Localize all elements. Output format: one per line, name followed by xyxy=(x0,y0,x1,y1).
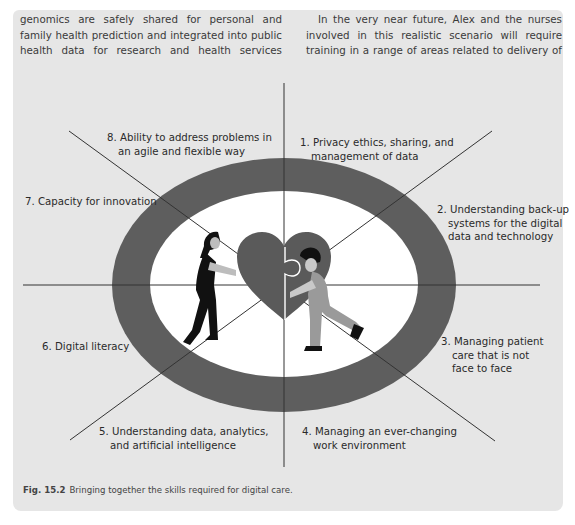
skill-text-3-line1: Managing patient xyxy=(454,336,543,347)
skill-text-2-line3: data and technology xyxy=(437,230,569,244)
skill-label-3: 3. Managing patient care that is not fac… xyxy=(441,335,543,376)
skill-text-8-line1: Ability to address problems in xyxy=(120,132,272,143)
skill-label-4: 4. Managing an ever-changing work enviro… xyxy=(302,425,457,452)
skill-number-2: 2. xyxy=(437,204,447,215)
skill-label-6: 6. Digital literacy xyxy=(42,340,129,354)
skill-text-5-line1: Understanding data, analytics, xyxy=(112,426,269,437)
skill-label-5: 5. Understanding data, analytics, and ar… xyxy=(99,425,268,452)
skill-text-8-line2: an agile and flexible way xyxy=(107,145,272,159)
figure-caption-text: Bringing together the skills required fo… xyxy=(69,485,292,495)
skill-label-7: 7. Capacity for innovation xyxy=(25,195,157,209)
skill-text-1-line1: Privacy ethics, sharing, and xyxy=(313,137,454,148)
skill-number-8: 8. xyxy=(107,132,117,143)
skill-text-3-line3: face to face xyxy=(441,362,543,376)
skill-text-5-line2: and artificial intelligence xyxy=(99,439,268,453)
skill-text-4-line2: work environment xyxy=(302,439,457,453)
skill-text-3-line2: care that is not xyxy=(441,349,543,363)
skill-number-1: 1. xyxy=(300,137,310,148)
skill-text-6-line1: Digital literacy xyxy=(55,341,129,352)
skill-text-4-line1: Managing an ever-changing xyxy=(315,426,457,437)
figure-caption: Fig. 15.2Bringing together the skills re… xyxy=(23,485,293,495)
skill-number-6: 6. xyxy=(42,341,52,352)
skill-text-7-line1: Capacity for innovation xyxy=(38,196,157,207)
skill-number-3: 3. xyxy=(441,336,451,347)
skill-label-1: 1. Privacy ethics, sharing, and manageme… xyxy=(300,136,454,163)
skill-text-2-line1: Understanding back-up xyxy=(450,204,569,215)
skill-number-5: 5. xyxy=(99,426,109,437)
skill-number-7: 7. xyxy=(25,196,35,207)
figure-caption-number: Fig. 15.2 xyxy=(23,485,65,495)
skill-number-4: 4. xyxy=(302,426,312,437)
skills-diagram xyxy=(0,0,575,525)
skill-label-2: 2. Understanding back-up systems for the… xyxy=(437,203,569,244)
skill-text-1-line2: management of data xyxy=(300,150,454,164)
skill-label-8: 8. Ability to address problems in an agi… xyxy=(107,131,272,158)
skill-text-2-line2: systems for the digital xyxy=(437,217,569,231)
